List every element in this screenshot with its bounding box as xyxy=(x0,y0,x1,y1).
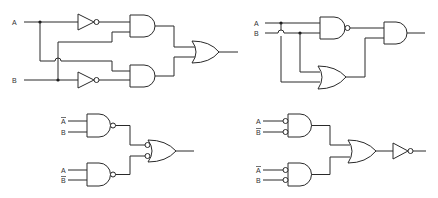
inverter-bubble-icon xyxy=(408,149,413,154)
circuit-2: A B xyxy=(254,17,425,89)
wire-or-out xyxy=(346,38,384,77)
and-gate-1 xyxy=(130,15,155,37)
input-label-b: B xyxy=(256,177,261,184)
wire-and1-out xyxy=(155,26,195,47)
or-gate xyxy=(192,41,219,63)
wire-a-branch xyxy=(40,22,130,71)
input-label-a: A xyxy=(61,167,66,174)
wire-b-branch xyxy=(300,33,320,72)
input-label-a: A xyxy=(12,19,17,26)
and-gate-inverted-inputs-1 xyxy=(288,114,312,137)
logic-diagram: A B A B xyxy=(0,0,438,198)
inverter-bubble-icon xyxy=(111,123,116,128)
circuit-4: A B A B xyxy=(256,114,426,186)
input-label-a: A xyxy=(254,20,259,27)
or-gate xyxy=(348,140,376,163)
inverter-bubble-icon xyxy=(283,178,288,183)
inverter-bubble-icon xyxy=(145,154,150,159)
input-label-b-bar: B xyxy=(61,177,66,184)
input-label-a: A xyxy=(256,118,261,125)
or-gate-inverted-inputs xyxy=(148,140,176,162)
inverter-bubble-icon xyxy=(283,130,288,135)
inverter-bubble-icon xyxy=(94,78,99,83)
nand-gate-2 xyxy=(87,163,111,186)
input-label-b: B xyxy=(12,77,17,84)
inverter-bubble-icon xyxy=(145,143,150,148)
wire-b xyxy=(265,30,320,33)
input-label-a-bar: A xyxy=(61,118,66,125)
and-gate xyxy=(384,22,407,44)
input-wires xyxy=(263,121,283,180)
or-gate xyxy=(318,66,346,89)
wire-nand2-out xyxy=(116,156,146,175)
circuit-3: A B A B xyxy=(61,114,194,186)
nand-gate-1 xyxy=(87,114,111,137)
inverter-bubble-icon xyxy=(111,172,116,177)
wire-nand1-out xyxy=(116,126,146,146)
input-label-b: B xyxy=(61,129,66,136)
input-wires xyxy=(68,121,87,180)
wire-and2-out xyxy=(155,57,195,76)
not-gate-a xyxy=(78,14,94,30)
not-gate-b xyxy=(78,72,94,88)
inverter-bubble-icon xyxy=(345,26,350,31)
input-label-b: B xyxy=(254,30,259,37)
inverter-bubble-icon xyxy=(283,119,288,124)
wire-b-branch xyxy=(58,32,130,80)
input-label-b-bar: B xyxy=(256,129,261,136)
and-gate-2 xyxy=(130,65,155,87)
inverter-bubble-icon xyxy=(283,168,288,173)
nand-gate xyxy=(320,17,345,39)
and-gate-inverted-inputs-2 xyxy=(288,163,312,186)
wire-and1-out xyxy=(312,126,351,146)
circuit-1: A B xyxy=(12,14,238,88)
input-label-a-bar: A xyxy=(256,167,261,174)
wire-and2-out xyxy=(312,157,351,175)
not-gate xyxy=(393,143,408,159)
inverter-bubble-icon xyxy=(94,20,99,25)
